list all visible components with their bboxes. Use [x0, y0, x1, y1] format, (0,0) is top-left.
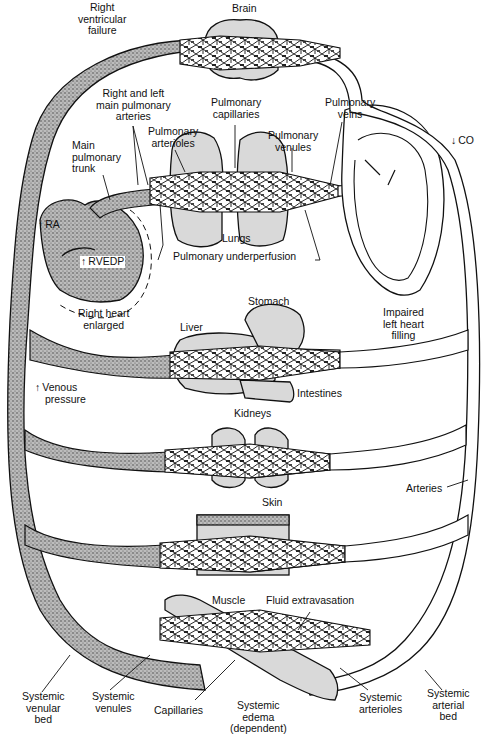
label-line: Pulmonary [325, 97, 375, 109]
label-line: arterioles [359, 704, 402, 716]
label-venous-pressure-increased: Venous pressure [35, 382, 86, 405]
label-pulmonary-arterioles: Pulmonary arterioles [148, 126, 198, 149]
label-line: Systemic [22, 691, 65, 703]
label-systemic-venules: Systemic venules [92, 691, 135, 714]
label-line: venules [268, 142, 318, 154]
label-line: (dependent) [230, 723, 287, 735]
label-line: Right and left [96, 88, 171, 100]
label-pulmonary-capillaries: Pulmonary capillaries [211, 97, 261, 120]
label-stomach: Stomach [248, 296, 289, 308]
label-line: bed [427, 711, 470, 723]
label-line: Systemic [427, 688, 470, 700]
label-main-pulmonary-trunk: Main pulmonary trunk [72, 140, 121, 175]
brain-circuit [180, 20, 340, 80]
label-impaired-left-heart-filling: Impaired left heart filling [383, 307, 424, 342]
label-line: Pulmonary [268, 130, 318, 142]
label-line: pressure [35, 394, 86, 406]
label-systemic-arterioles: Systemic arterioles [359, 692, 402, 715]
label-pulmonary-venules: Pulmonary venules [268, 130, 318, 153]
label-line: Pulmonary [211, 97, 261, 109]
label-intestines: Intestines [297, 388, 342, 400]
label-line: bed [22, 714, 65, 726]
label-fluid-extravasation: Fluid extravasation [266, 595, 354, 607]
label-rvedp-increased: RVEDP [80, 256, 125, 268]
label-line: Systemic [92, 691, 135, 703]
label-line: veins [325, 109, 375, 121]
label-line: venules [92, 703, 135, 715]
label-brain: Brain [232, 3, 257, 15]
label-skin: Skin [262, 497, 282, 509]
label-right-left-main-pulmonary-arteries: Right and left main pulmonary arteries [96, 88, 171, 123]
label-kidneys: Kidneys [234, 408, 271, 420]
label-capillaries: Capillaries [154, 705, 203, 717]
label-line: Venous [35, 382, 86, 394]
label-line: Pulmonary [148, 126, 198, 138]
label-lungs: Lungs [222, 233, 251, 245]
label-pulmonary-underperfusion: Pulmonary underperfusion [173, 251, 296, 263]
label-line: Systemic [230, 700, 287, 712]
label-muscle: Muscle [212, 595, 245, 607]
label-line: Impaired [383, 307, 424, 319]
label-systemic-venular-bed: Systemic venular bed [22, 691, 65, 726]
label-line: failure [78, 25, 126, 37]
intestines-shape [240, 380, 294, 402]
label-liver: Liver [180, 322, 203, 334]
label-ra-increased: RA [38, 219, 60, 231]
label-right-ventricular-failure: Right ventricular failure [78, 2, 126, 37]
skin-circuit [25, 515, 468, 575]
label-line: filling [383, 330, 424, 342]
label-systemic-arterial-bed: Systemic arterial bed [427, 688, 470, 723]
label-line: Right [78, 2, 126, 14]
label-systemic-edema-dependent: Systemic edema (dependent) [230, 700, 287, 735]
label-line: capillaries [211, 109, 261, 121]
label-right-heart-enlarged: Right heart enlarged [78, 308, 129, 331]
label-line: Right heart [78, 308, 129, 320]
label-line: Systemic [359, 692, 402, 704]
label-arteries: Arteries [406, 483, 442, 495]
label-line: arteries [96, 111, 171, 123]
label-line: enlarged [78, 320, 129, 332]
label-line: Main [72, 140, 121, 152]
label-line: trunk [72, 163, 121, 175]
label-pulmonary-veins: Pulmonary veins [325, 97, 375, 120]
kidney-circuit [25, 425, 466, 488]
label-line: arterioles [148, 138, 198, 150]
label-co-decreased: CO [451, 135, 474, 147]
